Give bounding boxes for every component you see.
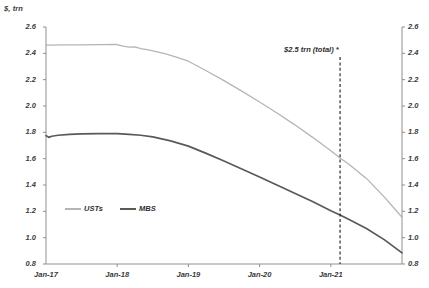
y-axis-right-tick-label: 1.6	[408, 154, 429, 163]
y-axis-left-tick-label: 1.2	[14, 206, 36, 215]
legend-swatch-mbs	[120, 208, 136, 210]
y-axis-right-tick-label: 1.0	[408, 233, 429, 242]
x-axis-tick-label: Jan-19	[158, 270, 218, 279]
annotation-total-label: $2.5 trn (total) *	[284, 45, 339, 54]
y-axis-left-tick-label: 1.8	[14, 127, 36, 136]
y-axis-left-tick-label: 0.8	[14, 259, 36, 268]
y-axis-left-tick-label: 1.0	[14, 233, 36, 242]
y-axis-right-tick-label: 2.4	[408, 48, 429, 57]
legend-label-usts: USTs	[84, 204, 103, 213]
plot-area	[0, 0, 429, 288]
legend-swatch-usts	[65, 208, 81, 210]
y-axis-left-tick-label: 1.4	[14, 180, 36, 189]
y-axis-left-tick-label: 2.6	[14, 22, 36, 31]
y-axis-right-tick-label: 1.2	[408, 206, 429, 215]
y-axis-left-tick-label: 2.4	[14, 48, 36, 57]
y-axis-left-tick-label: 2.0	[14, 101, 36, 110]
y-axis-left-tick-label: 2.2	[14, 75, 36, 84]
y-axis-right-tick-label: 1.8	[408, 127, 429, 136]
y-axis-right-tick-label: 2.2	[408, 75, 429, 84]
series-line-usts	[46, 45, 402, 218]
chart-container: $, trn 2.62.42.22.01.81.61.41.21.00.8 2.…	[0, 0, 429, 288]
x-axis-tick-label: Jan-18	[87, 270, 147, 279]
y-axis-right-tick-label: 2.6	[408, 22, 429, 31]
y-axis-right-tick-label: 1.4	[408, 180, 429, 189]
y-axis-right-tick-label: 0.8	[408, 259, 429, 268]
x-axis-tick-label: Jan-20	[230, 270, 290, 279]
x-axis-tick-label: Jan-21	[301, 270, 361, 279]
y-axis-left-tick-label: 1.6	[14, 154, 36, 163]
series-line-mbs	[46, 134, 402, 253]
x-axis-tick-label: Jan-17	[16, 270, 76, 279]
y-axis-right-tick-label: 2.0	[408, 101, 429, 110]
legend-label-mbs: MBS	[139, 204, 156, 213]
